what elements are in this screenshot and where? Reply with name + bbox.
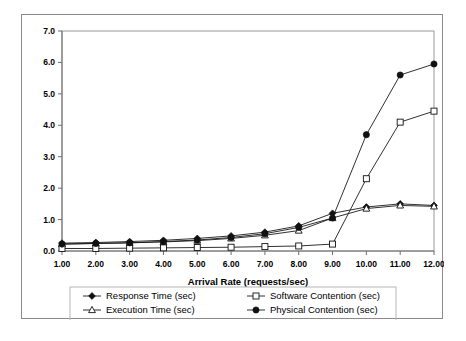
legend-marker-filled-circle — [253, 307, 259, 313]
data-point-3-4 — [194, 237, 200, 243]
x-axis-tick-label: 5.00 — [189, 259, 206, 269]
y-axis-tick-label: 7.0 — [43, 26, 55, 36]
y-axis-tick-label: 5.0 — [43, 89, 55, 99]
legend-label: Software Contention (sec) — [270, 290, 380, 301]
series-line-1 — [62, 205, 434, 244]
x-axis-tick-label: 12.00 — [423, 259, 444, 269]
data-point-3-5 — [228, 234, 234, 240]
x-axis-title: Arrival Rate (requests/sec) — [188, 276, 308, 287]
data-point-2-5 — [228, 244, 234, 250]
data-point-3-6 — [262, 231, 268, 237]
y-axis-tick-label: 4.0 — [43, 120, 55, 130]
data-point-2-4 — [194, 245, 200, 251]
data-point-3-7 — [296, 224, 302, 230]
y-axis-tick-label: 0.0 — [43, 246, 55, 256]
x-axis-tick-label: 2.00 — [88, 259, 105, 269]
series-line-3 — [62, 64, 434, 244]
data-point-2-10 — [397, 119, 403, 125]
x-axis-tick-label: 9.00 — [324, 259, 341, 269]
series-line-2 — [62, 111, 434, 248]
line-chart: 0.01.02.03.04.05.06.07.01.002.003.004.00… — [22, 15, 444, 320]
y-axis-tick-label: 6.0 — [43, 57, 55, 67]
data-point-2-11 — [431, 108, 437, 114]
data-point-3-9 — [363, 132, 369, 138]
x-axis-tick-label: 4.00 — [155, 259, 172, 269]
chart-plot-area: 0.01.02.03.04.05.06.07.01.002.003.004.00… — [22, 15, 444, 320]
data-point-2-6 — [262, 244, 268, 250]
data-point-3-3 — [160, 238, 166, 244]
legend-label: Physical Contention (sec) — [270, 304, 378, 315]
data-point-2-7 — [296, 243, 302, 249]
x-axis-tick-label: 1.00 — [54, 259, 71, 269]
data-point-3-11 — [431, 61, 437, 67]
y-axis-tick-label: 3.0 — [43, 152, 55, 162]
legend-marker-open-square — [253, 293, 259, 299]
y-axis-tick-label: 1.0 — [43, 215, 55, 225]
data-point-3-10 — [397, 72, 403, 78]
x-axis-tick-label: 11.00 — [390, 259, 411, 269]
plot-border-rect — [62, 31, 434, 251]
data-point-3-1 — [93, 240, 99, 246]
x-axis-tick-label: 10.00 — [356, 259, 378, 269]
legend-marker-open-triangle — [89, 306, 96, 312]
x-axis-tick-label: 6.00 — [223, 259, 240, 269]
data-point-3-2 — [127, 240, 133, 246]
data-point-3-8 — [329, 215, 335, 221]
legend-marker-filled-diamond — [89, 293, 96, 300]
legend-label: Execution Time (sec) — [106, 304, 195, 315]
data-point-3-0 — [59, 241, 65, 247]
x-axis-tick-label: 3.00 — [121, 259, 138, 269]
chart-frame: 0.01.02.03.04.05.06.07.01.002.003.004.00… — [21, 14, 443, 319]
x-axis-tick-label: 8.00 — [290, 259, 307, 269]
data-point-2-9 — [363, 176, 369, 182]
data-point-2-8 — [330, 241, 336, 247]
y-axis-tick-label: 2.0 — [43, 183, 55, 193]
x-axis-tick-label: 7.00 — [257, 259, 274, 269]
data-point-2-3 — [160, 245, 166, 251]
legend-label: Response Time (sec) — [106, 290, 196, 301]
